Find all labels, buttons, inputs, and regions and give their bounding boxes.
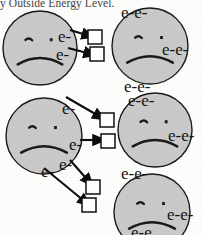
- electron-label: e-: [41, 163, 54, 180]
- electron-transfer-svg: [0, 0, 202, 235]
- electron-label: e-e-: [167, 206, 193, 223]
- electron-label: e-: [56, 46, 69, 63]
- atom-eye-right: [165, 120, 168, 123]
- atom-eye-right: [54, 126, 57, 129]
- electron-label: e-e-: [121, 165, 147, 182]
- electron-label: e-: [62, 100, 75, 117]
- acceptor-box-mid-1: [100, 113, 114, 127]
- electron-label: e-e: [131, 224, 152, 235]
- acceptor-box-top-1: [88, 30, 102, 44]
- boxes-layer: [82, 30, 115, 212]
- page-caption: y Outside Energy Level.: [0, 0, 202, 9]
- electron-label: e-: [69, 136, 82, 153]
- electron-label: e-: [58, 28, 71, 45]
- acceptor-box-bottom-2: [82, 198, 96, 212]
- acceptor-box-top-2: [90, 47, 104, 61]
- atom-eye-right: [50, 38, 53, 41]
- atom-eye-right: [160, 36, 163, 39]
- atom-eye-right: [162, 202, 165, 205]
- acceptor-box-mid-2: [101, 134, 115, 148]
- electron-label: e-e-: [128, 92, 154, 109]
- electron-label: e-e-: [162, 41, 188, 58]
- electron-label: e-: [59, 156, 72, 173]
- acceptor-box-bottom-1: [86, 180, 100, 194]
- diagram-canvas: y Outside Energy Level. e-e-e-e-e-e-e-e-…: [0, 0, 202, 235]
- electron-label: e-e-: [168, 127, 194, 144]
